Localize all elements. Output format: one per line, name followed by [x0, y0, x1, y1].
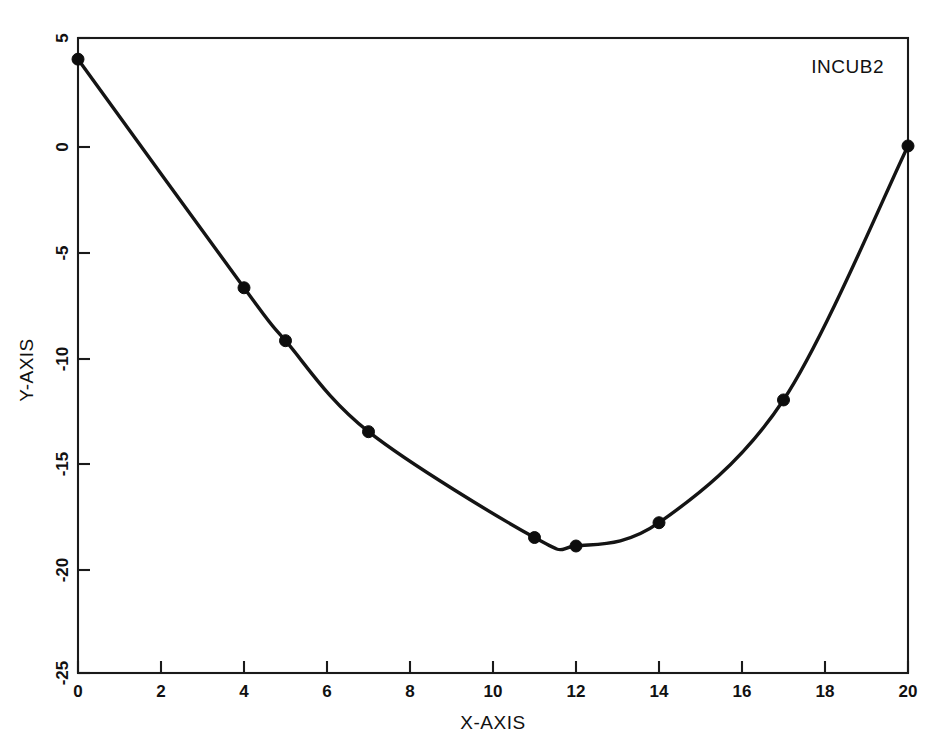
x-tick-label: 10	[484, 682, 503, 701]
data-point	[529, 532, 541, 544]
y-tick-labels: 5 0 -5 -10 -15 -20 -25	[53, 33, 72, 685]
data-markers	[72, 53, 914, 552]
y-tickmarks	[78, 38, 90, 673]
x-tick-label: 0	[73, 682, 82, 701]
data-point	[570, 540, 582, 552]
data-point	[653, 517, 665, 529]
x-axis-title: X-AXIS	[460, 712, 525, 733]
axes-frame	[78, 38, 908, 673]
y-tick-label: 5	[53, 33, 72, 42]
x-tick-label: 4	[239, 682, 249, 701]
x-tick-label: 6	[322, 682, 331, 701]
x-tick-label: 14	[650, 682, 669, 701]
y-tick-label: 0	[53, 142, 72, 151]
y-tick-label: -25	[53, 661, 72, 686]
y-tick-label: -10	[53, 347, 72, 372]
x-tick-label: 2	[156, 682, 165, 701]
x-tick-labels: 0 2 4 6 8 10 12 14 16 18 20	[73, 682, 917, 701]
chart-figure: 0 2 4 6 8 10 12 14 16 18 20 5 0 -5 -10 -…	[0, 0, 946, 746]
x-tick-label: 18	[816, 682, 835, 701]
data-point	[363, 426, 375, 438]
x-tick-label: 20	[899, 682, 918, 701]
data-point	[778, 394, 790, 406]
data-point	[902, 140, 914, 152]
y-tick-label: -20	[53, 558, 72, 583]
y-tick-label: -15	[53, 452, 72, 477]
data-point	[238, 282, 250, 294]
data-point	[280, 335, 292, 347]
y-axis-title: Y-AXIS	[16, 338, 37, 402]
data-curve	[78, 59, 908, 550]
x-tick-label: 8	[405, 682, 414, 701]
x-tick-label: 16	[733, 682, 752, 701]
plot-canvas: 0 2 4 6 8 10 12 14 16 18 20 5 0 -5 -10 -…	[0, 0, 946, 746]
x-tickmarks	[78, 661, 908, 673]
x-tick-label: 12	[567, 682, 586, 701]
data-point	[72, 53, 84, 65]
series-annotation-label: INCUB2	[811, 56, 884, 77]
y-tick-label: -5	[53, 245, 72, 260]
